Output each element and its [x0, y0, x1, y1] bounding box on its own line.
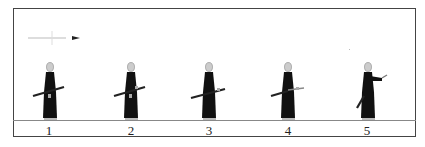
figure-step-5	[348, 62, 388, 122]
arrow-right-icon	[28, 31, 83, 45]
figure-step-3	[189, 62, 229, 122]
figure-step-1	[30, 62, 70, 122]
step-label-5: 5	[357, 123, 377, 139]
step-label-4: 4	[278, 123, 298, 139]
step-label-1: 1	[39, 123, 59, 139]
figure-step-2	[111, 62, 151, 122]
speck	[349, 49, 350, 50]
figure-step-4	[268, 62, 308, 122]
step-label-2: 2	[121, 123, 141, 139]
step-label-3: 3	[199, 123, 219, 139]
